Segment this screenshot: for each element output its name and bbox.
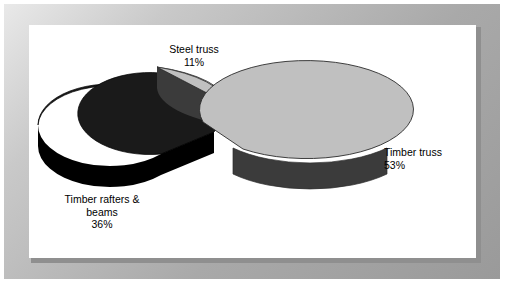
pie-label-rafters-name-line1: Timber rafters &	[34, 193, 170, 206]
pie-label-rafters-name-line2: beams	[34, 206, 170, 219]
pie-label-timber-truss: Timber truss 53%	[384, 146, 476, 171]
pie-slice-timber-truss	[199, 61, 413, 189]
pie-label-rafters-percent: 36%	[34, 218, 170, 231]
pie-label-steel-truss-percent: 11%	[139, 56, 249, 69]
pie-chart-figure: Steel truss 11% Timber truss 53% Timber …	[0, 0, 505, 283]
pie-label-steel-truss: Steel truss 11%	[139, 43, 249, 68]
slice-timber-truss-top	[199, 61, 413, 159]
pie-label-timber-rafters-and-beams: Timber rafters & beams 36%	[34, 193, 170, 231]
pie-label-timber-truss-name: Timber truss	[384, 146, 476, 159]
pie-label-steel-truss-name: Steel truss	[139, 43, 249, 56]
pie-label-timber-truss-percent: 53%	[384, 159, 476, 172]
plot-area: Steel truss 11% Timber truss 53% Timber …	[29, 25, 476, 258]
